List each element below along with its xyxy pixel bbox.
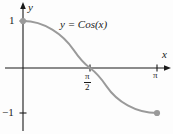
tick-label-x-pi-over-two: π 2 bbox=[84, 72, 91, 93]
tick-label-y-one: 1 bbox=[9, 15, 15, 26]
equation-annotation: y = Cos(x) bbox=[60, 19, 107, 30]
cosine-graph-figure: y x 1 −1 π 2 π y = Cos(x) bbox=[0, 0, 173, 134]
x-axis-arrowhead bbox=[164, 65, 171, 71]
curve-start-point-marker bbox=[20, 18, 26, 24]
tick-label-x-pi: π bbox=[153, 71, 158, 80]
y-axis-label: y bbox=[28, 2, 33, 13]
tick-label-y-negative-one: −1 bbox=[2, 107, 14, 118]
fraction-numerator: π bbox=[84, 72, 91, 81]
curve-end-point-marker bbox=[154, 110, 160, 116]
fraction-denominator: 2 bbox=[84, 83, 91, 92]
y-axis-arrowhead bbox=[20, 2, 26, 9]
x-axis-label: x bbox=[162, 49, 167, 60]
cosine-curve bbox=[23, 21, 157, 113]
